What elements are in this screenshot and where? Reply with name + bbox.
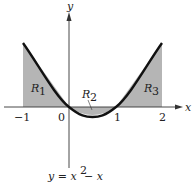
svg-text:2: 2 [90,91,97,104]
region-r2-label: R 2 [81,88,97,104]
svg-text:1: 1 [39,85,46,98]
svg-text:R: R [143,82,152,95]
x-axis-label: x [185,101,192,114]
x-tick-1: 1 [114,111,121,124]
x-tick-2: 2 [159,111,166,124]
svg-text:− x: − x [84,170,104,183]
x-axis-arrow-icon [175,105,183,110]
svg-text:3: 3 [152,85,159,98]
area-diagram: y x −1 0 1 2 R 1 R 2 R 3 y = x 2 − x [0,0,195,187]
y-axis-label: y [66,0,74,13]
y-axis-arrow-icon [67,12,72,21]
x-tick-neg1: −1 [14,111,30,124]
svg-text:y = x: y = x [47,170,77,183]
x-tick-0: 0 [58,111,65,124]
equation-label: y = x 2 − x [47,164,104,183]
svg-text:R: R [81,88,90,101]
svg-text:R: R [30,82,39,95]
